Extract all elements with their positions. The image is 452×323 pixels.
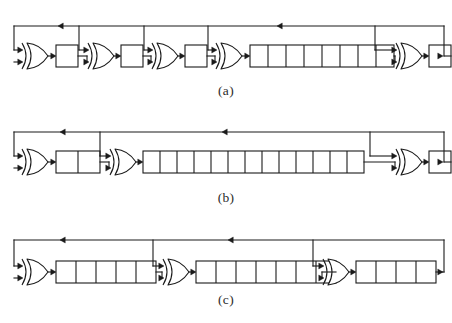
chain-arrowhead [138, 159, 143, 165]
xor-gate-b-2[interactable] [396, 149, 422, 175]
register-a-3[interactable] [250, 45, 394, 67]
xor-gate-b-1[interactable] [110, 149, 136, 175]
xor-body [221, 43, 242, 69]
xor-body [27, 43, 48, 69]
chain-arrowhead [212, 59, 217, 65]
feedback-arrowhead [18, 153, 23, 159]
lfsr-diagram-b [14, 129, 451, 175]
input-arrowhead [18, 59, 23, 65]
xor-gate-a-2[interactable] [152, 43, 178, 69]
xor-body [157, 43, 178, 69]
chain-arrowhead [392, 165, 397, 171]
register-b-0[interactable] [56, 151, 100, 173]
xor-gate-a-0[interactable] [22, 43, 48, 69]
register-outline [185, 45, 207, 67]
input-arrowhead [18, 165, 23, 171]
lfsr-diagram-a [14, 23, 451, 69]
tap-arrowhead [84, 47, 89, 53]
chain-arrowhead [148, 59, 153, 65]
xor-back-arc [396, 43, 400, 69]
xor-gate-c-0[interactable] [22, 259, 48, 285]
xor-back-arc [88, 43, 92, 69]
output-arrowhead [438, 269, 443, 275]
tap-arrowhead [159, 263, 164, 269]
chain-arrowhead [116, 53, 121, 59]
chain-arrowhead [245, 53, 250, 59]
xor-back-arc [163, 259, 167, 285]
tap-arrowhead [392, 153, 397, 159]
xor-gate-a-4[interactable] [396, 43, 422, 69]
xor-body [115, 149, 136, 175]
xor-gate-a-3[interactable] [216, 43, 242, 69]
xor-gate-b-0[interactable] [22, 149, 48, 175]
register-c-1[interactable] [196, 261, 336, 283]
register-a-1[interactable] [121, 45, 143, 67]
register-outline [56, 261, 156, 283]
chain-arrowhead [51, 53, 56, 59]
chain-arrowhead [84, 59, 89, 65]
chain-arrowhead [180, 53, 185, 59]
chain-arrowhead [51, 269, 56, 275]
caption-b: (b) [0, 190, 452, 206]
register-c-2[interactable] [356, 261, 436, 283]
feedback-bus-arrowhead [60, 237, 65, 243]
tap-arrowhead [148, 47, 153, 53]
xor-body [27, 149, 48, 175]
feedback-arrowhead [18, 263, 23, 269]
register-b-1[interactable] [143, 151, 364, 173]
register-outline [143, 151, 364, 173]
xor-back-arc [110, 149, 114, 175]
xor-gate-c-1[interactable] [163, 259, 189, 285]
register-outline [56, 45, 78, 67]
xor-back-arc [22, 259, 26, 285]
chain-arrowhead [51, 159, 56, 165]
feedback-bus-arrowhead [222, 129, 227, 135]
register-outline [121, 45, 143, 67]
xor-body [401, 149, 422, 175]
chain-arrowhead [191, 269, 196, 275]
input-arrowhead [18, 275, 23, 281]
chain-arrowhead [424, 159, 429, 165]
feedback-bus-arrowhead [60, 129, 65, 135]
caption-c: (c) [0, 292, 452, 308]
feedback-bus-arrowhead [228, 237, 233, 243]
feedback-bus-arrowhead [277, 23, 282, 29]
register-a-2[interactable] [185, 45, 207, 67]
tap-arrowhead [106, 153, 111, 159]
xor-back-arc [396, 149, 400, 175]
chain-arrowhead [159, 275, 164, 281]
chain-arrowhead [351, 269, 356, 275]
register-c-0[interactable] [56, 261, 156, 283]
xor-back-arc [22, 43, 26, 69]
caption-a: (a) [0, 83, 452, 99]
feedback-arrowhead [18, 47, 23, 53]
feedback-bus-arrowhead [58, 23, 63, 29]
xor-back-arc [22, 149, 26, 175]
figure-root: (a) (b) (c) [0, 0, 452, 323]
xor-back-arc [152, 43, 156, 69]
register-a-0[interactable] [56, 45, 78, 67]
lfsr-diagram-svg [0, 0, 452, 323]
register-outline [196, 261, 336, 283]
lfsr-diagram-c [14, 237, 444, 285]
xor-body [27, 259, 48, 285]
chain-arrowhead [424, 53, 429, 59]
chain-arrowhead [106, 165, 111, 171]
xor-back-arc [216, 43, 220, 69]
xor-body [401, 43, 422, 69]
xor-gate-a-1[interactable] [88, 43, 114, 69]
xor-body [93, 43, 114, 69]
xor-body [168, 259, 189, 285]
tap-arrowhead [212, 47, 217, 53]
